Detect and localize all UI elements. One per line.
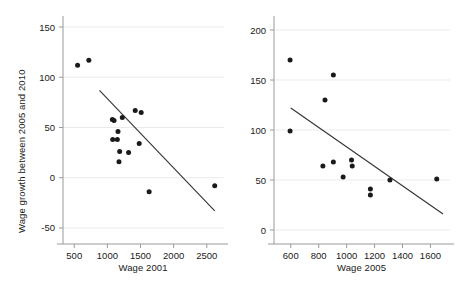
x-tick-label: 1200	[364, 250, 385, 261]
data-point	[288, 129, 293, 134]
x-tick-label: 1400	[392, 250, 413, 261]
data-point	[368, 193, 373, 198]
data-point	[115, 129, 120, 134]
y-tick-label: 100	[250, 125, 266, 136]
y-tick-label: 50	[255, 175, 266, 186]
x-tick-label: 1500	[130, 250, 151, 261]
y-tick-label: 150	[39, 22, 55, 33]
data-point	[288, 58, 293, 63]
right-plot-canvas: 0501001502006008001000120014001600	[232, 0, 457, 289]
data-point	[112, 118, 117, 123]
data-point	[341, 175, 346, 180]
data-point	[110, 137, 115, 142]
x-tick-label: 1600	[420, 250, 441, 261]
x-tick-label: 2500	[196, 250, 217, 261]
data-point	[86, 58, 91, 63]
data-point	[434, 177, 439, 182]
data-point	[116, 159, 121, 164]
data-point	[368, 187, 373, 192]
data-point	[115, 137, 120, 142]
x-tick-label: 1000	[336, 250, 357, 261]
x-tick-label: 1000	[97, 250, 118, 261]
data-point	[117, 149, 122, 154]
x-tick-label: 800	[311, 250, 327, 261]
data-point	[350, 164, 355, 169]
data-point	[120, 115, 125, 120]
data-point	[349, 158, 354, 163]
left-y-axis-label: Wage growth between 2005 and 2010	[16, 69, 27, 233]
panel-left: -500501001505001000150020002500 Wage 200…	[0, 0, 232, 289]
figure-scatter-panels: -500501001505001000150020002500 Wage 200…	[0, 0, 457, 289]
data-point	[331, 73, 336, 78]
left-plot-canvas: -500501001505001000150020002500	[0, 0, 232, 289]
data-point	[322, 98, 327, 103]
y-tick-label: 0	[50, 172, 55, 183]
data-point	[147, 189, 152, 194]
y-tick-label: 150	[250, 75, 266, 86]
regression-line	[291, 108, 443, 214]
data-point	[137, 141, 142, 146]
x-tick-label: 500	[66, 250, 82, 261]
data-point	[139, 110, 144, 115]
y-tick-label: -50	[41, 222, 55, 233]
y-tick-label: 50	[44, 122, 55, 133]
data-point	[75, 63, 80, 68]
data-point	[133, 108, 138, 113]
y-tick-label: 0	[261, 225, 266, 236]
panel-right: 0501001502006008001000120014001600 Wage …	[232, 0, 457, 289]
y-tick-label: 100	[39, 72, 55, 83]
data-point	[320, 164, 325, 169]
y-tick-label: 200	[250, 25, 266, 36]
x-tick-label: 600	[283, 250, 299, 261]
data-point	[387, 178, 392, 183]
x-tick-label: 2000	[163, 250, 184, 261]
right-x-axis-label: Wage 2005	[274, 262, 449, 273]
left-x-axis-label: Wage 2001	[63, 262, 223, 273]
data-point	[331, 160, 336, 165]
regression-line	[99, 90, 214, 211]
data-point	[212, 183, 217, 188]
data-point	[126, 150, 131, 155]
